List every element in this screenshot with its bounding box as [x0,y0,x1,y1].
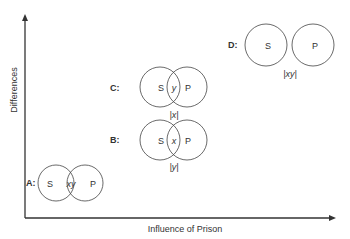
panel-c: C: S y P |x| [110,67,207,120]
y-axis-label: Differences [9,67,19,113]
panel-a-label: A: [26,178,36,188]
diagram-canvas: Influence of Prison Differences A: S xy … [0,0,350,239]
panel-b-p-text: P [185,136,191,146]
panel-a-p-text: P [90,179,96,189]
venn-diagram-svg: Influence of Prison Differences A: S xy … [0,0,350,239]
panel-d: D: S P |xy| [228,24,334,79]
panel-c-p-text: P [185,83,191,93]
panel-d-s-text: S [265,41,271,51]
x-axis-arrow-icon [329,215,336,221]
y-axis-arrow-icon [22,14,28,21]
panel-d-label: D: [228,40,238,50]
panel-b-overlap-text: x [171,136,177,146]
panel-a: A: S xy P [26,165,103,201]
panel-c-below-text: |x| [169,110,178,120]
panel-d-below-text: |xy| [283,69,297,79]
panel-a-overlap-text: xy [66,179,77,189]
panel-b-s-text: S [158,136,164,146]
panel-c-label: C: [110,83,120,93]
panel-b-label: B: [110,135,120,145]
panel-c-overlap-text: y [171,83,177,93]
panel-b: B: S x P |y| [110,120,207,172]
panel-a-s-text: S [47,179,53,189]
panel-b-below-text: |y| [169,162,178,172]
panel-d-p-text: P [312,41,318,51]
panel-c-s-text: S [158,83,164,93]
x-axis-label: Influence of Prison [148,224,223,234]
